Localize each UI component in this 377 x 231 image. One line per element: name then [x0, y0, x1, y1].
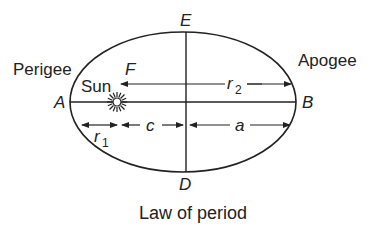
point-e-label: E	[180, 11, 192, 30]
point-a-label: A	[53, 93, 65, 112]
point-d-label: D	[179, 175, 191, 194]
focus-label: F	[125, 60, 137, 79]
svg-text:r: r	[94, 127, 101, 146]
apogee-label: Apogee	[298, 51, 357, 70]
perigee-label: Perigee	[13, 60, 72, 79]
sun-label: Sun	[81, 77, 111, 96]
r2-arrow	[121, 76, 291, 92]
svg-text:1: 1	[102, 136, 109, 150]
caption: Law of period	[139, 203, 247, 223]
c-label: c	[146, 116, 155, 135]
point-b-label: B	[302, 93, 313, 112]
svg-text:2: 2	[235, 83, 242, 97]
a-label: a	[235, 116, 244, 135]
ellipse-orbit-diagram: Perigee Apogee Sun F A B E D r 1 r 2 c a…	[0, 0, 377, 231]
